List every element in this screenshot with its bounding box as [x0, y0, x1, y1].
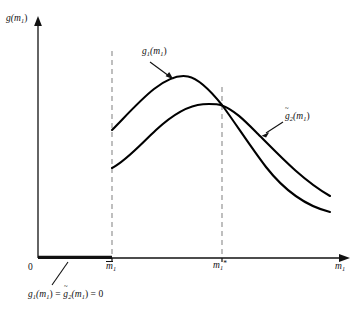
curve-label-g1-subscript: 1: [147, 50, 150, 57]
caption-g2-subscript: 2: [68, 293, 71, 300]
annotation-arrow-g2: [262, 122, 283, 138]
curve-label-g2-arg-open: (m: [293, 111, 303, 121]
curve-label-g1-arg-close: ): [164, 46, 167, 56]
caption-equals-1: =: [53, 289, 63, 299]
curve-label-g1: g1(m1): [142, 47, 167, 57]
tick-label-m-bar-1: m1: [106, 262, 116, 272]
caption-g2-arg-open: (m: [71, 289, 81, 299]
caption-g1-subscript: 1: [33, 293, 36, 300]
tick-label-m-bar-1-base: m: [106, 262, 113, 272]
figure-container: g(m1) g1(m1) g2(m1) 0 m1 m1* m1 g1(m1) =…: [0, 0, 364, 319]
tick-label-m-star-1: m1*: [213, 261, 227, 271]
caption-tail: = 0: [88, 289, 103, 299]
y-axis-label-subscript: 1: [21, 17, 24, 24]
tick-label-m-bar-1-subscript: 1: [113, 265, 116, 272]
curve-label-g2-subscript: 2: [290, 115, 293, 122]
x-axis-label: m1: [335, 262, 345, 272]
x-axis-label-subscript: 1: [342, 265, 345, 272]
caption-g2-arg-subscript: 1: [82, 293, 85, 300]
x-axis-label-base: m: [335, 261, 342, 271]
annotation-arrow-g1: [150, 62, 173, 79]
caption-g1-arg-open: (m: [36, 289, 46, 299]
origin-label: 0: [28, 263, 33, 273]
y-axis-label-close: ): [24, 13, 27, 23]
curve-label-g2-tilde: g2(m1): [285, 112, 310, 122]
curve-label-g2-arg-subscript: 1: [303, 115, 306, 122]
curve-g1: [112, 76, 330, 212]
annotation-arrow-g2-shaft: [266, 122, 283, 133]
y-axis-label-base: g(m: [6, 13, 21, 23]
plot-canvas: [0, 0, 364, 319]
annotation-arrow-g2-head: [262, 132, 270, 137]
annotation-arrow-g1-shaft: [150, 62, 169, 76]
y-axis-label: g(m1): [6, 14, 28, 24]
curve-label-g2-arg-close: ): [307, 111, 310, 121]
curve-label-g1-arg-subscript: 1: [160, 50, 163, 57]
y-axis: [34, 16, 42, 258]
y-axis-arrowhead: [34, 16, 42, 26]
zero-condition-caption: g1(m1) = g2(m1) = 0: [28, 290, 103, 300]
caption-g1-arg-subscript: 1: [46, 293, 49, 300]
star-icon: *: [223, 259, 227, 268]
curve-label-g1-arg-open: (m: [150, 46, 160, 56]
tick-label-m-star-1-base: m: [213, 260, 220, 270]
annotation-arrow-g1-head: [166, 72, 174, 79]
